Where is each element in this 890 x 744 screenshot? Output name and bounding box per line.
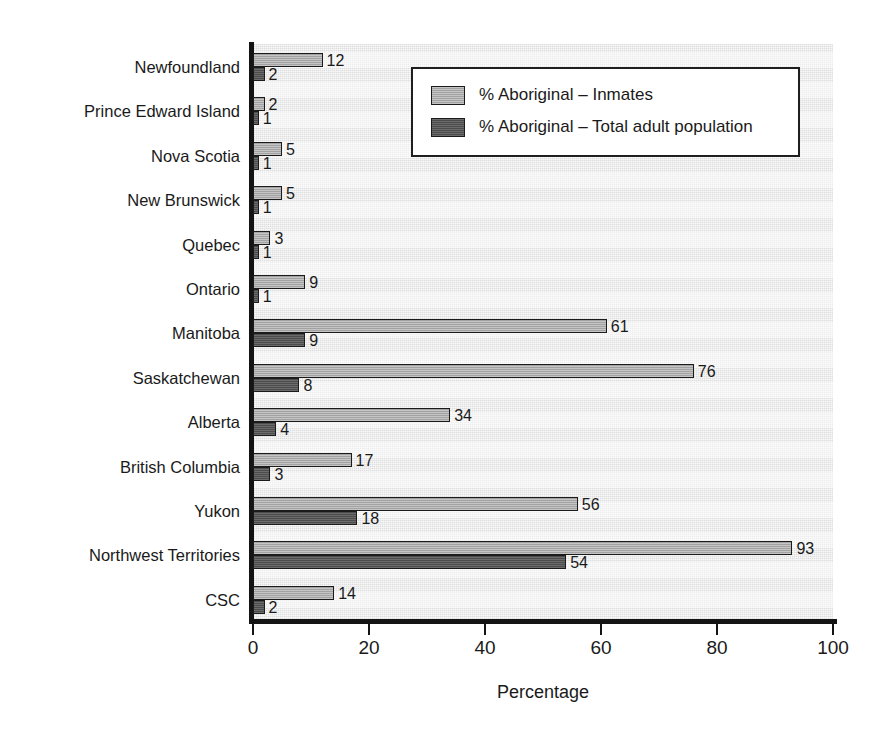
bar-value-label: 17 xyxy=(356,452,374,470)
bar xyxy=(253,422,276,436)
x-tick-label: 0 xyxy=(223,637,283,659)
bar-value-label: 1 xyxy=(263,288,272,306)
category-label: Alberta xyxy=(188,413,240,432)
legend-swatch-inmates xyxy=(431,86,465,105)
x-tick-label: 20 xyxy=(339,637,399,659)
x-axis-title: Percentage xyxy=(253,682,833,703)
bar xyxy=(253,511,357,525)
category-label: CSC xyxy=(205,591,240,610)
bar-value-label: 93 xyxy=(796,540,814,558)
bar-value-label: 1 xyxy=(263,199,272,217)
bar-value-label: 61 xyxy=(611,318,629,336)
bar xyxy=(253,200,259,214)
bar-value-label: 12 xyxy=(327,52,345,70)
x-tick-mark xyxy=(368,624,370,635)
x-tick-mark xyxy=(832,624,834,635)
bar-value-label: 1 xyxy=(263,110,272,128)
category-label: New Brunswick xyxy=(127,191,240,210)
category-label: Yukon xyxy=(194,502,240,521)
bar xyxy=(253,245,259,259)
bar xyxy=(253,586,334,600)
category-label: Newfoundland xyxy=(135,58,241,77)
bar xyxy=(253,333,305,347)
bar-chart: 020406080100 NewfoundlandPrince Edward I… xyxy=(0,0,890,744)
bar xyxy=(253,275,305,289)
category-label: Quebec xyxy=(182,236,240,255)
bar xyxy=(253,364,694,378)
bar xyxy=(253,186,282,200)
bar-value-label: 34 xyxy=(454,407,472,425)
bar xyxy=(253,600,265,614)
category-label: Nova Scotia xyxy=(151,147,240,166)
bar xyxy=(253,555,566,569)
bar-value-label: 14 xyxy=(338,585,356,603)
bar xyxy=(253,97,265,111)
x-tick-mark xyxy=(484,624,486,635)
legend-label-inmates: % Aboriginal – Inmates xyxy=(479,85,653,105)
bar-value-label: 56 xyxy=(582,496,600,514)
x-tick-label: 100 xyxy=(803,637,863,659)
bar-value-label: 9 xyxy=(309,332,318,350)
category-label: Ontario xyxy=(186,280,240,299)
x-tick-label: 60 xyxy=(571,637,631,659)
bar-value-label: 3 xyxy=(274,230,283,248)
category-label: Prince Edward Island xyxy=(84,102,240,121)
x-axis-line xyxy=(249,619,837,624)
bar-value-label: 1 xyxy=(263,155,272,173)
bar xyxy=(253,408,450,422)
bar-value-label: 76 xyxy=(698,363,716,381)
legend: % Aboriginal – Inmates % Aboriginal – To… xyxy=(411,67,800,157)
bar-value-label: 5 xyxy=(286,141,295,159)
bar xyxy=(253,156,259,170)
bar xyxy=(253,497,578,511)
x-tick-label: 80 xyxy=(687,637,747,659)
legend-label-total-adult-population: % Aboriginal – Total adult population xyxy=(479,117,753,137)
bar xyxy=(253,467,270,481)
bar-value-label: 2 xyxy=(269,66,278,84)
bar xyxy=(253,231,270,245)
bar-value-label: 1 xyxy=(263,244,272,262)
bar-value-label: 18 xyxy=(361,510,379,528)
bar xyxy=(253,319,607,333)
bar xyxy=(253,67,265,81)
category-label: Manitoba xyxy=(172,324,240,343)
bar-value-label: 54 xyxy=(570,554,588,572)
bar xyxy=(253,111,259,125)
x-tick-mark xyxy=(252,624,254,635)
category-label: Saskatchewan xyxy=(133,369,240,388)
x-tick-mark xyxy=(716,624,718,635)
bar xyxy=(253,142,282,156)
bar-value-label: 5 xyxy=(286,185,295,203)
bar xyxy=(253,378,299,392)
category-label: Northwest Territories xyxy=(89,546,240,565)
bar xyxy=(253,289,259,303)
bar-value-label: 9 xyxy=(309,274,318,292)
bar-value-label: 3 xyxy=(274,466,283,484)
bar-value-label: 8 xyxy=(303,377,312,395)
bar-value-label: 2 xyxy=(269,599,278,617)
x-tick-label: 40 xyxy=(455,637,515,659)
legend-item-inmates: % Aboriginal – Inmates xyxy=(431,85,653,105)
bar xyxy=(253,453,352,467)
legend-swatch-total-adult-population xyxy=(431,118,465,137)
bar-value-label: 4 xyxy=(280,421,289,439)
legend-item-total-adult-population: % Aboriginal – Total adult population xyxy=(431,117,753,137)
bar xyxy=(253,53,323,67)
category-label: British Columbia xyxy=(120,458,240,477)
bar xyxy=(253,541,792,555)
x-tick-mark xyxy=(600,624,602,635)
